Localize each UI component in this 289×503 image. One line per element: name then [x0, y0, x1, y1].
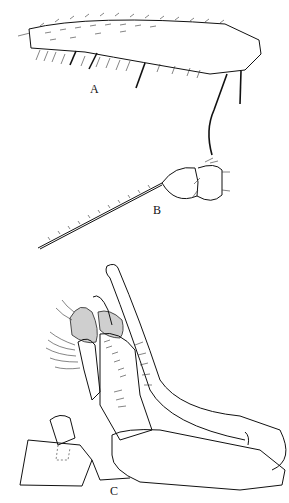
panel-b-antenna — [38, 158, 230, 249]
panel-c-genitalia — [20, 264, 286, 490]
line-drawing — [0, 0, 289, 503]
panel-label-a: A — [90, 82, 99, 97]
panel-label-b: B — [153, 203, 161, 218]
panel-label-c: C — [110, 484, 118, 499]
figure-plate: A B C — [0, 0, 289, 503]
panel-a-femur — [18, 13, 261, 155]
